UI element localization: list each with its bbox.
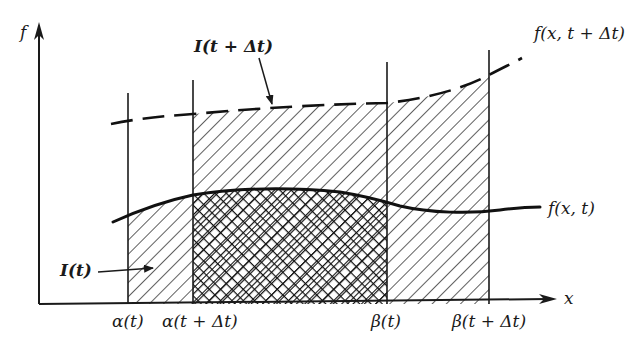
region-overlap [193,189,387,304]
tick-alpha-t: α(t) [112,311,144,331]
x-axis-label: x [564,288,574,308]
tick-beta-t: β(t) [370,311,401,331]
diagram-canvas: f x f(x, t + Δt) f(x, t) I(t + Δt) I(t) … [0,0,644,345]
y-axis-label: f [18,22,29,42]
solid-curve-label: f(x, t) [546,198,595,218]
tick-alpha-t-dt: α(t + Δt) [162,311,238,331]
dashed-curve-label: f(x, t + Δt) [532,23,625,43]
tick-beta-t-dt: β(t + Δt) [451,311,526,331]
I-t-label: I(t) [59,260,92,280]
I-t-dt-label: I(t + Δt) [193,36,273,56]
I-t-dt-pointer [259,58,272,104]
